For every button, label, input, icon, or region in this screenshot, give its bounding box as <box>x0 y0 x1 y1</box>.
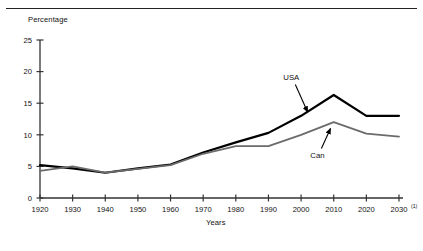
chart-figure: Percentage Years 05101520251920193019401… <box>0 0 423 251</box>
y-axis-tick-label: 15 <box>24 99 32 108</box>
x-axis-tick-label: 1980 <box>227 205 244 214</box>
series-annotation-label-can: Can <box>310 151 324 160</box>
line-chart-svg: 0510152025192019301940195019601970198019… <box>0 0 423 251</box>
series-annotation-arrow-can <box>321 128 330 148</box>
y-axis-tick-label: 25 <box>24 36 32 45</box>
axes-layer: 0510152025192019301940195019601970198019… <box>24 36 418 214</box>
x-axis-footnote-marker: (1) <box>411 203 418 209</box>
x-axis-tick-label: 1920 <box>32 205 49 214</box>
x-axis-tick-label: 1990 <box>260 205 277 214</box>
x-axis-tick-label: 1930 <box>64 205 81 214</box>
x-axis-tick-label: 2020 <box>358 205 375 214</box>
y-axis-tick-label: 10 <box>24 131 32 140</box>
y-axis-tick-label: 5 <box>28 162 32 171</box>
x-axis-tick-label: 2010 <box>325 205 342 214</box>
annotation-layer: USACan <box>283 73 330 159</box>
x-axis-tick-label: 2030 <box>391 205 408 214</box>
series-annotation-arrow-usa <box>295 84 307 112</box>
y-axis-tick-label: 0 <box>28 194 32 203</box>
x-axis-tick-label: 1960 <box>162 205 179 214</box>
x-axis-tick-label: 1970 <box>195 205 212 214</box>
y-axis-tick-label: 20 <box>24 67 32 76</box>
x-axis-tick-label: 1950 <box>129 205 146 214</box>
x-axis-tick-label: 2000 <box>293 205 310 214</box>
x-axis-tick-label: 1940 <box>97 205 114 214</box>
series-line-usa <box>40 95 399 173</box>
series-annotation-label-usa: USA <box>283 73 300 82</box>
series-layer <box>40 95 399 173</box>
